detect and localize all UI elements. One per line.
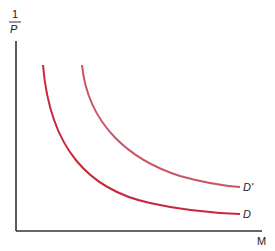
curve-d-prime xyxy=(82,65,240,187)
x-axis-label: M xyxy=(257,235,266,247)
y-label-denominator: P xyxy=(10,23,17,35)
chart-canvas xyxy=(0,0,275,251)
curve-d xyxy=(43,65,240,214)
curve-label-d-prime: D' xyxy=(243,181,253,193)
curve-label-d: D xyxy=(243,208,251,220)
y-label-numerator: 1 xyxy=(12,8,18,20)
